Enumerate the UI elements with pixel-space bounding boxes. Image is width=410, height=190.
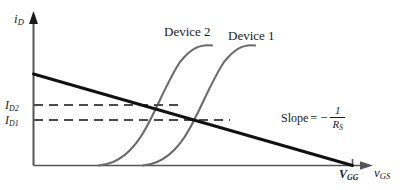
slope-word: Slope — [281, 112, 308, 124]
x-axis-label-base: v — [374, 165, 380, 180]
mosfet-load-line-figure: iD vGS VGG ID2 ID1 Device 2 Device 1 Slo… — [0, 0, 410, 190]
x-axis-label-subscript: GS — [380, 171, 390, 181]
annotation-slope: Slope = − 1 RS — [281, 105, 345, 130]
slope-fraction-numerator: 1 — [333, 105, 343, 117]
y-axis — [29, 11, 38, 166]
current-level-subscript-id1: D1 — [9, 119, 19, 128]
x-axis — [34, 161, 374, 170]
slope-fraction-denominator: RS — [330, 118, 344, 130]
x-axis-arrowhead — [360, 161, 373, 170]
x-axis-label: vGS — [374, 166, 390, 179]
annotation-device1: Device 1 — [228, 29, 275, 42]
current-level-subscript-id2: D2 — [9, 104, 19, 113]
x-tick-label-base: V — [339, 167, 347, 181]
y-axis-label-subscript: D — [18, 17, 24, 27]
current-level-label-id1: ID1 — [5, 114, 19, 126]
slope-denominator-subscript: S — [339, 124, 343, 132]
x-tick-label-vgg: VGG — [339, 168, 358, 180]
y-axis-label: iD — [14, 12, 24, 25]
slope-minus-sign: − — [319, 111, 328, 124]
annotation-device2: Device 2 — [164, 25, 211, 38]
y-axis-arrowhead — [29, 11, 38, 24]
slope-equals-sign: = — [310, 112, 317, 124]
current-level-label-id2: ID2 — [5, 99, 19, 111]
x-tick-label-subscript: GG — [347, 173, 358, 182]
slope-fraction: 1 RS — [330, 105, 344, 130]
